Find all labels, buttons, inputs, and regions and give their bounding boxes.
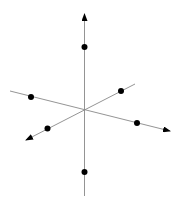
point-top (82, 44, 88, 50)
point-bottom (82, 169, 88, 175)
point-lower-left (45, 126, 51, 132)
point-left (28, 94, 34, 100)
axes-diagram (0, 0, 179, 204)
point-right (134, 120, 140, 126)
axes-group (10, 14, 170, 196)
point-upper-right (118, 88, 124, 94)
